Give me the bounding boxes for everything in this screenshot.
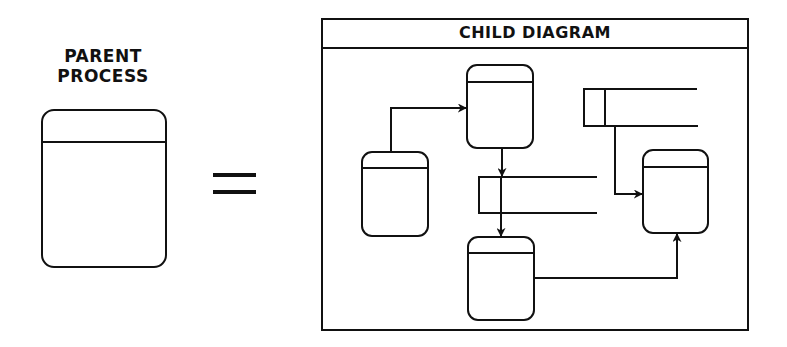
process-p1 — [467, 65, 533, 148]
flow-d2-to-p4 — [615, 126, 642, 194]
process-p2 — [362, 152, 428, 236]
flow-p2-to-p1 — [391, 108, 466, 152]
data-store-d2 — [584, 89, 698, 126]
equals-icon — [213, 175, 256, 192]
process-p4 — [643, 150, 708, 233]
data-store-d1 — [479, 177, 597, 213]
process-p3 — [468, 237, 534, 320]
flow-p3-to-p4 — [534, 234, 677, 278]
child-diagram-title: CHILD DIAGRAM — [322, 22, 748, 44]
diagram-canvas — [0, 0, 787, 347]
parent-process-box — [42, 110, 166, 267]
